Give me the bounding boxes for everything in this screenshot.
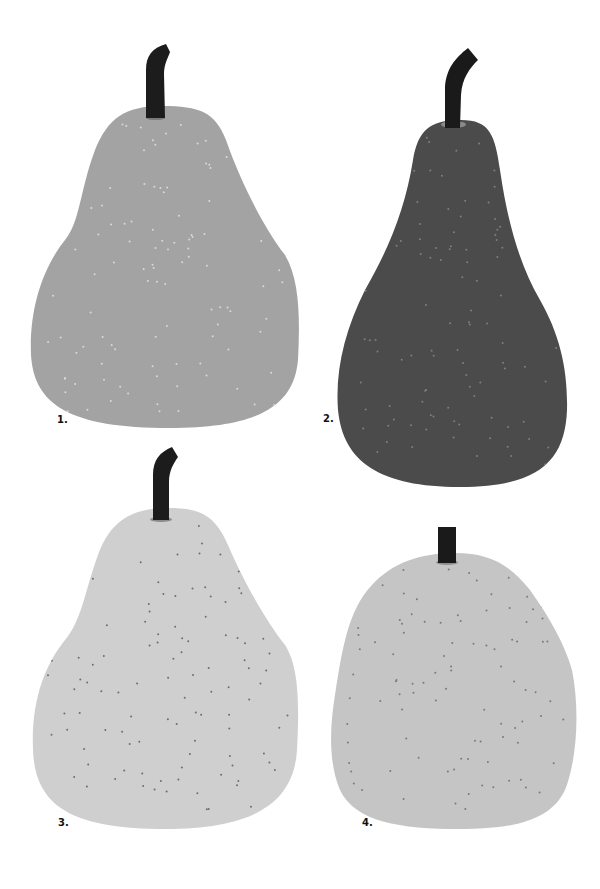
pear-1-label: 1. bbox=[57, 414, 68, 425]
pear-2-label: 2. bbox=[323, 413, 334, 424]
pear-4-body bbox=[331, 553, 576, 829]
pear-4-label: 4. bbox=[362, 817, 373, 828]
pear-4 bbox=[331, 527, 576, 829]
pear-4-stem bbox=[438, 527, 456, 563]
pear-illustration-canvas bbox=[0, 0, 600, 889]
pear-2 bbox=[337, 48, 567, 487]
pear-2-body bbox=[337, 120, 567, 487]
pear-3 bbox=[33, 447, 298, 829]
pear-1 bbox=[31, 44, 299, 428]
pear-2-stem bbox=[445, 48, 478, 128]
pear-3-body bbox=[33, 508, 298, 829]
pear-1-body bbox=[31, 106, 299, 428]
pear-3-label: 3. bbox=[58, 817, 69, 828]
